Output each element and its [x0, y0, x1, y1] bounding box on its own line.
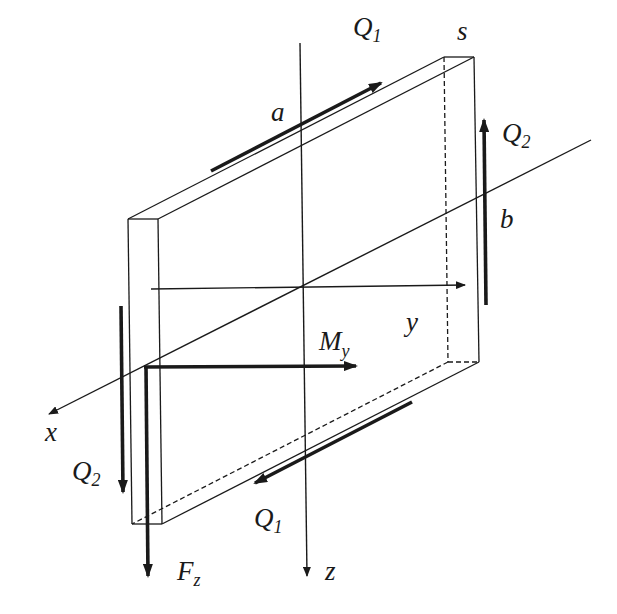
x-axis	[49, 140, 591, 414]
label-fz-sub: z	[193, 570, 201, 590]
label-q1-bottom: Q1	[254, 503, 283, 537]
label-q2-right-sub: 2	[522, 132, 531, 152]
label-fz: Fz	[176, 556, 201, 590]
label-q1-bottom-sub: 1	[274, 517, 283, 537]
label-y: y	[403, 307, 418, 337]
label-q2-right-main: Q	[502, 118, 522, 148]
label-x: x	[44, 417, 57, 447]
label-q2-left-main: Q	[72, 456, 92, 486]
label-my-sub: y	[340, 341, 350, 361]
label-my: My	[318, 326, 350, 361]
label-fz-main: F	[176, 556, 194, 586]
plate-top-front-edge	[158, 57, 474, 219]
plate-back-bottom-edge	[132, 362, 448, 524]
plate-bottom-front-edge	[162, 362, 479, 524]
label-q2-left: Q2	[72, 456, 101, 490]
label-my-main: M	[318, 326, 343, 356]
label-q1-top: Q1	[353, 12, 382, 46]
q2-right-arrow	[484, 120, 486, 305]
label-q2-left-sub: 2	[92, 470, 101, 490]
label-z: z	[324, 556, 336, 586]
my-arrow	[144, 366, 356, 367]
plate-left-outer-edge	[128, 219, 132, 524]
plate-top-back-edge	[128, 57, 444, 219]
plate-right-front-edge	[474, 57, 479, 362]
label-q2-right: Q2	[502, 118, 531, 152]
q1-bottom-arrow	[255, 402, 412, 483]
label-q1-top-sub: 1	[373, 26, 382, 46]
y-axis	[151, 285, 465, 289]
label-q1-top-main: Q	[353, 12, 373, 42]
label-q1-bottom-main: Q	[254, 503, 274, 533]
label-s: s	[457, 16, 468, 46]
plate-back-right-edge	[444, 57, 448, 362]
labels: s a b x y z Q1 Q2 Q2 Q1 My Fz	[44, 12, 531, 590]
q1-top-arrow	[211, 83, 381, 171]
label-a: a	[271, 97, 285, 127]
label-b: b	[500, 204, 514, 234]
fz-arrow	[146, 367, 148, 576]
plate-left-inner-edge	[158, 219, 162, 524]
plate-force-diagram: s a b x y z Q1 Q2 Q2 Q1 My Fz	[0, 0, 617, 614]
q2-left-arrow	[121, 306, 123, 492]
